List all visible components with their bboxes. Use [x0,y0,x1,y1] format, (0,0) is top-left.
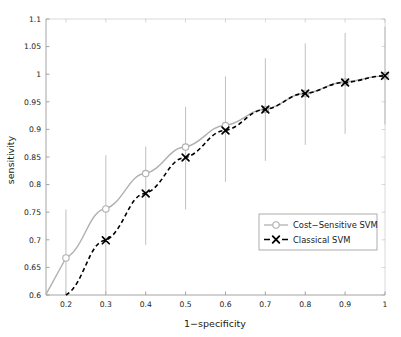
y-tick-label: 0.9 [29,125,41,134]
x-tick-label: 0.8 [299,300,311,309]
x-tick-label: 0.7 [259,300,271,309]
legend-label: Cost−Sensitive SVM [293,220,378,230]
y-tick-label: 0.95 [24,98,41,107]
x-tick-label: 0.5 [180,300,192,309]
data-point-circle-marker [143,170,149,176]
roc-chart-figure: 0.60.650.70.750.80.850.90.9511.051.1 0.2… [0,0,401,337]
y-tick-label: 0.65 [24,263,41,272]
legend-label: Classical SVM [293,235,350,245]
chart-canvas: 0.60.650.70.750.80.850.90.9511.051.1 0.2… [0,0,401,337]
x-tick-label: 0.2 [60,300,72,309]
y-tick-label: 0.85 [24,153,41,162]
circle-marker-icon [273,222,279,228]
x-tick-label: 0.3 [100,300,112,309]
x-tick-label: 0.9 [339,300,351,309]
data-point-circle-marker [63,255,69,261]
x-axis-label: 1−specificity [184,318,246,329]
data-point-circle-marker [182,144,188,150]
y-tick-label: 0.7 [29,236,41,245]
data-point-circle-marker [103,206,109,212]
y-tick-label: 1 [36,70,41,79]
chart-legend[interactable]: Cost−Sensitive SVMClassical SVM [259,214,378,250]
x-tick-label: 0.6 [219,300,231,309]
y-tick-label: 0.8 [29,180,41,189]
y-tick-label: 1.1 [29,15,41,24]
y-tick-label: 1.05 [24,42,41,51]
y-tick-label: 0.75 [24,208,41,217]
x-tick-label: 1 [383,300,388,309]
x-tick-label: 0.4 [140,300,152,309]
chart-background [0,0,401,337]
y-tick-label: 0.6 [29,291,41,300]
y-axis-label: sensitivity [5,135,16,184]
